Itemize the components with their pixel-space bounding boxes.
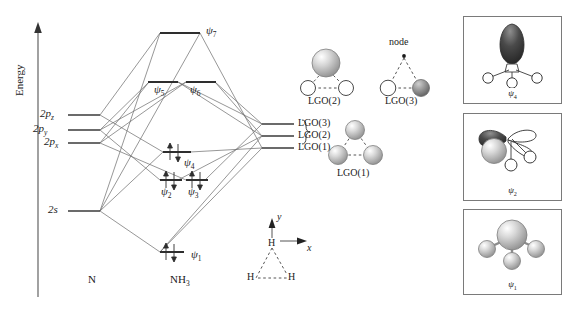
fragment-label-n: N xyxy=(88,274,96,285)
mo-label-psi1: ψ1 xyxy=(191,249,202,263)
mo-label-psi3: ψ3 xyxy=(188,186,199,200)
mo-diagram-figure: Energy 2pz 2py 2px 2s ψ7 ψ5 ψ6 ψ4 ψ2 ψ3 … xyxy=(0,0,574,311)
electron-arrows xyxy=(164,143,203,262)
lgo2-picture xyxy=(301,49,354,96)
correlation-lines-lgo xyxy=(160,33,262,252)
lgo-level-label-3: LGO(3) xyxy=(298,118,330,128)
lgo1-picture-caption: LGO(1) xyxy=(337,168,369,178)
psi4-panel-caption: ψ4 xyxy=(464,88,561,100)
mo-label-psi6: ψ6 xyxy=(190,84,201,98)
inset-atom-h-right: H xyxy=(287,272,296,282)
correlation-lines xyxy=(100,33,200,252)
geometry-inset xyxy=(256,218,307,278)
lgo2-picture-caption: LGO(2) xyxy=(308,96,340,106)
energy-axis-label: Energy xyxy=(14,64,25,96)
lgo-levels xyxy=(262,124,294,148)
lgo1-picture xyxy=(329,121,383,165)
mo-levels xyxy=(148,33,216,252)
psi2-panel-caption: ψ2 xyxy=(464,185,561,197)
mo-label-psi5: ψ5 xyxy=(154,84,165,98)
mo-picture-panel-psi2: ψ2 xyxy=(463,113,562,201)
mo-label-psi7: ψ7 xyxy=(206,25,217,39)
psi2-orbital-drawing xyxy=(465,115,560,185)
ao-label-2s: 2s xyxy=(48,204,58,215)
psi4-orbital-drawing xyxy=(465,18,560,88)
psi1-panel-caption: ψ1 xyxy=(464,279,561,291)
mo-picture-panel-psi4: ψ4 xyxy=(463,16,562,104)
inset-atom-h-top: H xyxy=(267,238,276,248)
mo-picture-panel-psi1: ψ1 xyxy=(463,209,562,295)
axis-x-label: x xyxy=(307,243,311,253)
ao-label-2px: 2px xyxy=(44,136,58,150)
node-annotation: node xyxy=(389,37,408,47)
ao-label-2pz: 2pz xyxy=(40,108,54,122)
lgo3-picture xyxy=(380,54,429,96)
lgo3-picture-caption: LGO(3) xyxy=(385,96,417,106)
lgo-level-label-1: LGO(1) xyxy=(298,142,330,152)
mo-label-psi2: ψ2 xyxy=(161,186,172,200)
n-atomic-levels xyxy=(68,115,100,211)
mo-label-psi4: ψ4 xyxy=(184,157,195,171)
axis-y-label: y xyxy=(277,212,281,222)
psi1-orbital-drawing xyxy=(465,211,560,279)
lgo-level-label-2: LGO(2) xyxy=(298,130,330,140)
energy-axis xyxy=(34,22,42,297)
inset-atom-h-left: H xyxy=(246,272,255,282)
fragment-label-nh3: NH3 xyxy=(170,274,190,288)
